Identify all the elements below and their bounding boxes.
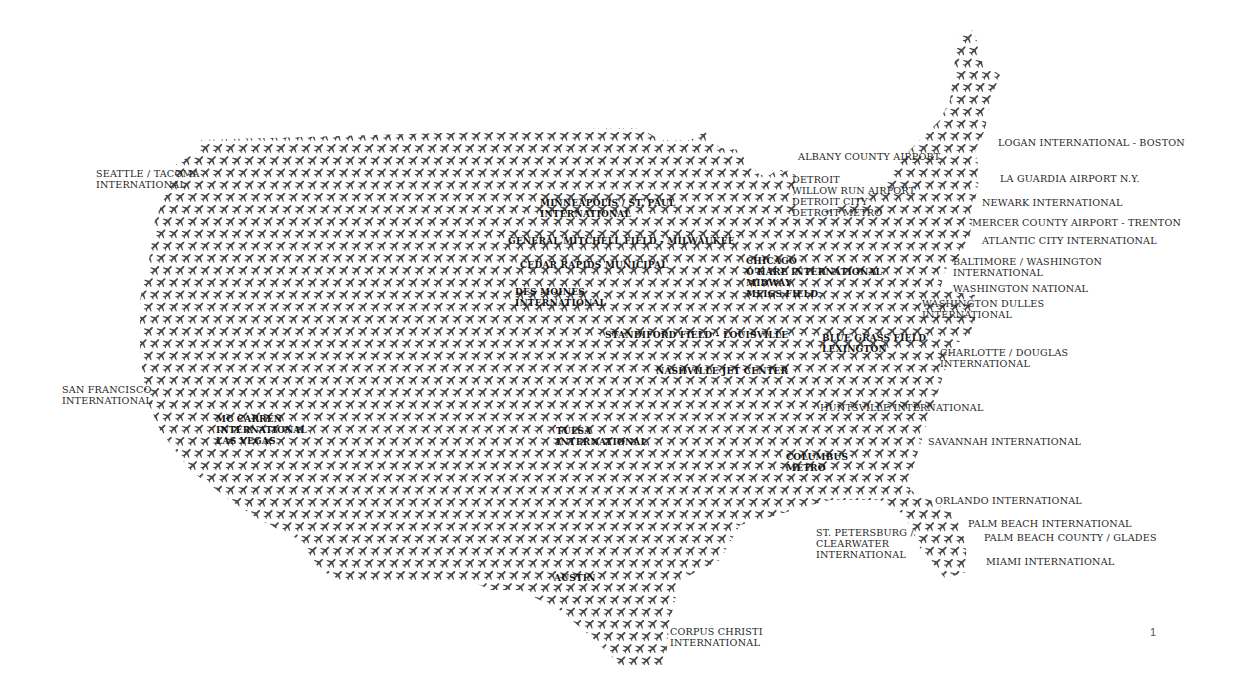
airplane-icon — [715, 311, 730, 326]
airplane-icon — [173, 67, 188, 82]
airplane-icon — [639, 19, 654, 34]
airplane-icon — [274, 555, 289, 570]
airplane-icon — [268, 543, 283, 558]
airplane-icon — [627, 531, 642, 546]
airplane-icon — [356, 275, 371, 290]
airplane-icon — [406, 568, 421, 583]
airplane-icon — [312, 555, 327, 570]
airplane-icon — [368, 202, 383, 217]
airplane-icon — [450, 458, 465, 473]
airplane-icon — [671, 519, 686, 534]
airplane-icon — [797, 324, 812, 339]
airplane-icon — [368, 80, 383, 95]
airplane-icon — [891, 482, 906, 497]
airplane-icon — [589, 43, 604, 58]
airplane-icon — [293, 543, 308, 558]
airplane-icon — [242, 519, 257, 534]
airplane-icon — [973, 177, 988, 192]
airplane-icon — [494, 348, 509, 363]
airplane-icon — [683, 446, 698, 461]
airport-label-la-guardia: LA GUARDIA AIRPORT N.Y. — [1000, 173, 1140, 184]
airplane-icon — [293, 275, 308, 290]
airplane-icon — [520, 202, 535, 217]
airplane-icon — [728, 531, 743, 546]
airplane-icon — [564, 507, 579, 522]
airplane-icon — [709, 568, 724, 583]
airplane-icon — [602, 360, 617, 375]
airplane-icon — [954, 531, 969, 546]
airplane-icon — [293, 250, 308, 265]
airplane-icon — [872, 128, 887, 143]
airplane-icon — [860, 592, 875, 607]
airplane-icon — [394, 568, 409, 583]
airplane-icon — [929, 385, 944, 400]
airplane-icon — [205, 494, 220, 509]
airplane-icon — [444, 153, 459, 168]
airplane-icon — [998, 80, 1013, 95]
airplane-icon — [551, 604, 566, 619]
airplane-icon — [198, 555, 213, 570]
airplane-icon — [293, 446, 308, 461]
airplane-icon — [910, 665, 925, 680]
airplane-icon — [343, 372, 358, 387]
airplane-icon — [198, 311, 213, 326]
airplane-icon — [406, 80, 421, 95]
airplane-icon — [570, 397, 585, 412]
airplane-icon — [249, 555, 264, 570]
airplane-icon — [431, 348, 446, 363]
airplane-icon — [192, 543, 207, 558]
airplane-icon — [148, 409, 163, 424]
airplane-icon — [186, 43, 201, 58]
airplane-icon — [671, 153, 686, 168]
airplane-icon — [242, 592, 257, 607]
airplane-icon — [249, 360, 264, 375]
airplane-icon — [765, 311, 780, 326]
airplane-icon — [305, 177, 320, 192]
airplane-icon — [482, 80, 497, 95]
airplane-icon — [148, 580, 163, 595]
airplane-icon — [413, 653, 428, 668]
airplane-icon — [494, 128, 509, 143]
airplane-icon — [312, 92, 327, 107]
airplane-icon — [186, 287, 201, 302]
airplane-icon — [942, 385, 957, 400]
airplane-icon — [520, 568, 535, 583]
airplane-icon — [476, 287, 491, 302]
airplane-icon — [154, 470, 169, 485]
airplane-icon — [709, 31, 724, 46]
airplane-icon — [400, 555, 415, 570]
airplane-icon — [387, 92, 402, 107]
airplane-icon — [677, 507, 692, 522]
airplane-icon — [356, 494, 371, 509]
airplane-icon — [179, 80, 194, 95]
airplane-icon — [539, 507, 554, 522]
airplane-icon — [179, 128, 194, 143]
airplane-icon — [230, 104, 245, 119]
airplane-icon — [343, 446, 358, 461]
airplane-icon — [602, 653, 617, 668]
airplane-icon — [551, 141, 566, 156]
airplane-icon — [381, 421, 396, 436]
airplane-icon — [375, 482, 390, 497]
airplane-icon — [463, 141, 478, 156]
airplane-icon — [532, 153, 547, 168]
airplane-icon — [986, 55, 1001, 70]
airplane-icon — [331, 55, 346, 70]
airplane-icon — [809, 80, 824, 95]
airplane-icon — [431, 250, 446, 265]
airplane-icon — [954, 165, 969, 180]
airplane-icon — [154, 397, 169, 412]
airplane-icon — [469, 80, 484, 95]
airplane-icon — [633, 568, 648, 583]
airplane-icon — [324, 507, 339, 522]
airplane-icon — [179, 446, 194, 461]
airplane-icon — [910, 275, 925, 290]
airplane-icon — [746, 494, 761, 509]
airplane-icon — [879, 580, 894, 595]
airplane-icon — [904, 360, 919, 375]
airplane-icon — [847, 80, 862, 95]
airplane-icon — [431, 616, 446, 631]
airplane-icon — [457, 55, 472, 70]
airplane-icon — [368, 153, 383, 168]
airplane-icon — [740, 19, 755, 34]
